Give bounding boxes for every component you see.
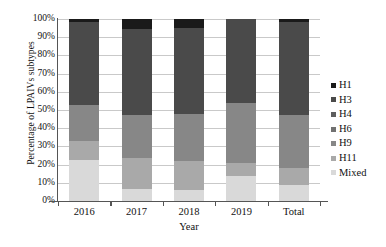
legend-item-H3[interactable]: H3 xyxy=(331,93,386,108)
legend-item-H6[interactable]: H6 xyxy=(331,122,386,137)
y-tick-label-100: 100% xyxy=(3,14,55,24)
y-tick-label-90: 90% xyxy=(3,32,55,42)
bar-2019[interactable] xyxy=(226,19,256,201)
y-tick-label-10: 10% xyxy=(3,178,55,188)
bar-segment-2018-H9[interactable] xyxy=(174,114,204,161)
bar-segment-2017-H1[interactable] xyxy=(122,19,152,29)
bar-segment-2017-H11[interactable] xyxy=(122,158,152,189)
legend-swatch-icon-H6 xyxy=(331,127,336,132)
y-tick-label-80: 80% xyxy=(3,50,55,60)
y-tick-label-30: 30% xyxy=(3,141,55,151)
legend-label-H9: H9 xyxy=(339,138,352,149)
bar-segment-Total-H1[interactable] xyxy=(279,19,309,22)
legend-label-Mixed: Mixed xyxy=(339,168,366,179)
legend-swatch-icon-Mixed xyxy=(331,170,336,175)
bar-segment-2019-H3[interactable] xyxy=(226,19,256,103)
bar-Total[interactable] xyxy=(279,19,309,201)
x-tick-label-Total: Total xyxy=(259,206,329,217)
bar-segment-Total-Mixed[interactable] xyxy=(279,185,309,201)
bar-segment-2017-Mixed[interactable] xyxy=(122,189,152,201)
x-tick-mark-4 xyxy=(268,201,269,206)
legend-item-H9[interactable]: H9 xyxy=(331,136,386,151)
legend-item-H1[interactable]: H1 xyxy=(331,78,386,93)
x-axis-line xyxy=(49,201,328,202)
x-tick-mark-2 xyxy=(163,201,164,206)
bar-segment-2016-H1[interactable] xyxy=(69,19,99,22)
legend-item-Mixed[interactable]: Mixed xyxy=(331,166,386,181)
x-tick-mark-3 xyxy=(215,201,216,206)
bar-segment-2018-H1[interactable] xyxy=(174,19,204,28)
bar-segment-2017-H3[interactable] xyxy=(122,29,152,115)
x-tick-mark-1 xyxy=(110,201,111,206)
chart-legend: H1H3H4H6H9H11Mixed xyxy=(331,78,386,180)
legend-item-H4[interactable]: H4 xyxy=(331,107,386,122)
y-tick-label-70: 70% xyxy=(3,69,55,79)
legend-swatch-icon-H9 xyxy=(331,141,336,146)
legend-swatch-icon-H1 xyxy=(331,83,336,88)
bar-segment-2016-H9[interactable] xyxy=(69,105,99,141)
bar-segment-2018-Mixed[interactable] xyxy=(174,190,204,201)
bar-segment-Total-H11[interactable] xyxy=(279,168,309,184)
bar-segment-2019-H9[interactable] xyxy=(226,103,256,163)
stacked-bar-chart: Percentage of LPAIVs subtypes 0%10%20%30… xyxy=(0,0,386,247)
x-axis-title: Year xyxy=(58,221,320,232)
y-tick-label-40: 40% xyxy=(3,123,55,133)
legend-swatch-icon-H4 xyxy=(331,112,336,117)
bar-2018[interactable] xyxy=(174,19,204,201)
x-tick-mark-5 xyxy=(320,201,321,206)
legend-label-H1: H1 xyxy=(339,80,352,91)
legend-label-H6: H6 xyxy=(339,124,352,135)
y-tick-label-60: 60% xyxy=(3,87,55,97)
bar-segment-2019-H11[interactable] xyxy=(226,163,256,176)
y-tick-label-20: 20% xyxy=(3,160,55,170)
legend-label-H11: H11 xyxy=(339,153,357,164)
legend-swatch-icon-H11 xyxy=(331,156,336,161)
bar-segment-2018-H3[interactable] xyxy=(174,28,204,114)
x-tick-mark-0 xyxy=(58,201,59,206)
bar-segment-2017-H9[interactable] xyxy=(122,115,152,159)
legend-swatch-icon-H3 xyxy=(331,97,336,102)
bar-segment-Total-H9[interactable] xyxy=(279,115,309,168)
y-tick-label-50: 50% xyxy=(3,105,55,115)
legend-label-H3: H3 xyxy=(339,95,352,106)
bar-segment-2016-H3[interactable] xyxy=(69,22,99,105)
bar-2016[interactable] xyxy=(69,19,99,201)
y-axis-line xyxy=(57,18,58,202)
bar-2017[interactable] xyxy=(122,19,152,201)
bar-segment-2018-H11[interactable] xyxy=(174,161,204,190)
bar-segment-2016-Mixed[interactable] xyxy=(69,160,99,201)
bar-segment-Total-H3[interactable] xyxy=(279,22,309,116)
y-axis-tick-labels: 0%10%20%30%40%50%60%70%80%90%100% xyxy=(0,19,55,201)
legend-item-H11[interactable]: H11 xyxy=(331,151,386,166)
bar-segment-2016-H11[interactable] xyxy=(69,141,99,160)
bar-segment-2019-Mixed[interactable] xyxy=(226,176,256,201)
legend-label-H4: H4 xyxy=(339,109,352,120)
plot-area xyxy=(58,19,320,201)
y-tick-label-0: 0% xyxy=(3,196,55,206)
